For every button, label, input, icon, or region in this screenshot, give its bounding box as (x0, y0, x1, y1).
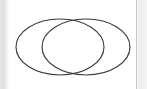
left-set-ellipse[interactable] (16, 19, 104, 75)
venn-diagram-figure (9, 0, 136, 89)
right-set-ellipse[interactable] (42, 19, 130, 75)
drawing-canvas[interactable] (9, 0, 136, 89)
screenshot-root (0, 0, 147, 89)
left-page-shadow-strip (0, 0, 9, 89)
right-page-gutter (137, 0, 147, 89)
